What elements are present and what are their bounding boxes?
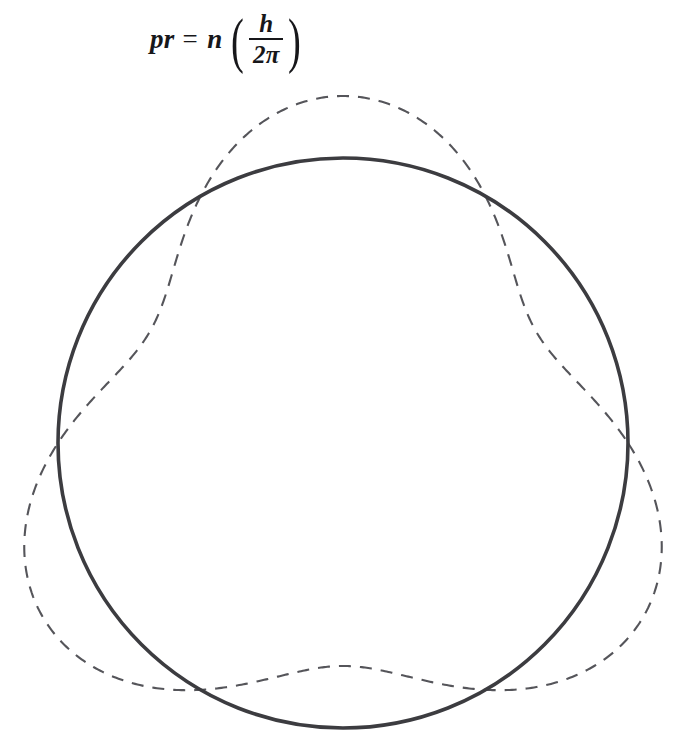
- figure-root: pr = n ( h 2π ): [0, 0, 673, 747]
- standing-wave-diagram: [0, 0, 673, 747]
- standing-wave-curve: [24, 96, 662, 690]
- orbit-circle: [58, 158, 628, 728]
